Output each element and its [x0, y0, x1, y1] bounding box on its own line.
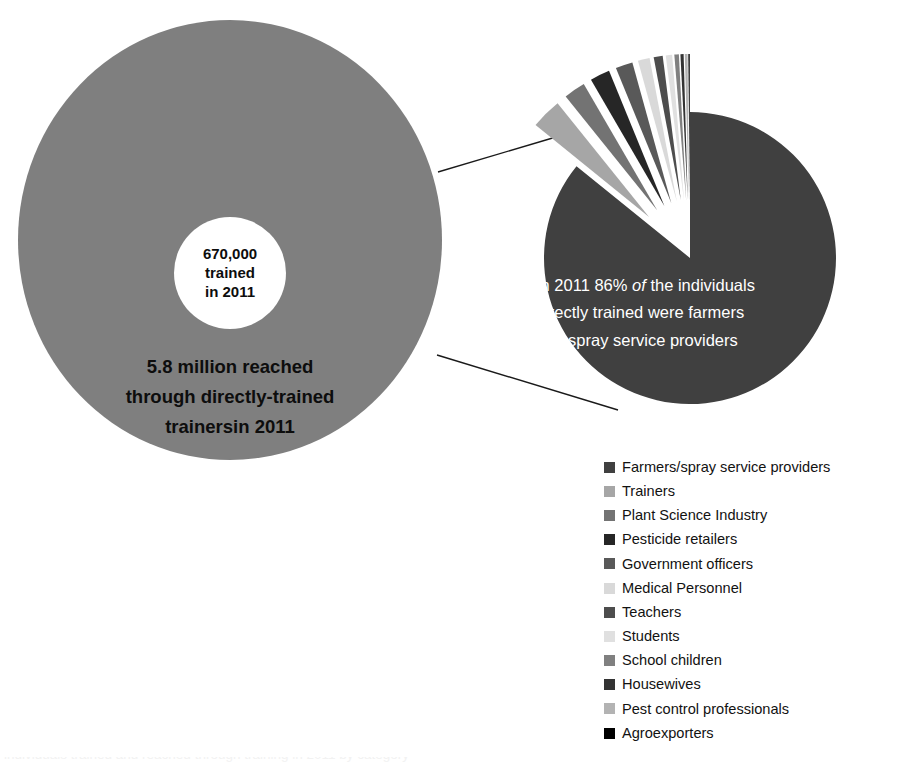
legend-item: Pesticide retailers	[604, 528, 904, 552]
donut-caption-line-1: 5.8 million reached	[18, 352, 442, 382]
chart-legend: Farmers/spray service providersTrainersP…	[604, 455, 904, 745]
legend-item: Plant Science Industry	[604, 503, 904, 527]
pie-callout-line1-a: In 2011 86%	[536, 276, 632, 294]
legend-item-label: Students	[622, 629, 680, 644]
legend-item: Government officers	[604, 552, 904, 576]
donut-center-line-3: in 2011	[205, 284, 255, 300]
legend-item: Medical Personnel	[604, 576, 904, 600]
donut-caption-line-3: trainersin 2011	[18, 412, 442, 442]
legend-item-label: Pest control professionals	[622, 702, 789, 717]
pie-callout-line-2: directly trained were farmers	[536, 299, 832, 326]
legend-swatch-icon	[604, 583, 615, 594]
pie-chart-figure: 670,000 trained in 2011 5.8 million reac…	[0, 0, 906, 771]
legend-item-label: Farmers/spray service providers	[622, 460, 830, 475]
legend-swatch-icon	[604, 703, 615, 714]
legend-swatch-icon	[604, 534, 615, 545]
figure-caption-text: individuals trained and reached through …	[4, 757, 604, 762]
donut-center-line-2: trained	[205, 265, 255, 281]
legend-item: Pest control professionals	[604, 697, 904, 721]
legend-swatch-icon	[604, 631, 615, 642]
legend-swatch-icon	[604, 462, 615, 473]
pie-callout-line-1: In 2011 86% of the individuals	[536, 272, 832, 299]
legend-item-label: Government officers	[622, 557, 753, 572]
legend-item-label: Housewives	[622, 677, 701, 692]
legend-item: Agroexporters	[604, 721, 904, 745]
pie-callout-line-3: and spray service providers	[536, 327, 832, 354]
legend-item-label: Pesticide retailers	[622, 532, 737, 547]
legend-swatch-icon	[604, 679, 615, 690]
legend-item-label: Teachers	[622, 605, 681, 620]
legend-swatch-icon	[604, 607, 615, 618]
reach-donut-hole: 670,000 trained in 2011	[174, 217, 286, 329]
reach-donut: 670,000 trained in 2011 5.8 million reac…	[18, 20, 442, 460]
pie-callout-text: In 2011 86% of the individuals directly …	[536, 272, 832, 354]
legend-item: Housewives	[604, 673, 904, 697]
legend-item-label: Agroexporters	[622, 726, 714, 741]
legend-item-label: Trainers	[622, 484, 675, 499]
donut-center-line-1: 670,000	[203, 246, 257, 262]
legend-swatch-icon	[604, 486, 615, 497]
legend-item-label: Medical Personnel	[622, 581, 742, 596]
legend-item: Teachers	[604, 600, 904, 624]
legend-item: School children	[604, 649, 904, 673]
pie-callout-line1-b: the individuals	[646, 276, 755, 294]
legend-item: Trainers	[604, 479, 904, 503]
pie-callout-line1-italic: of	[632, 276, 646, 294]
legend-item-label: Plant Science Industry	[622, 508, 767, 523]
legend-item-label: School children	[622, 653, 722, 668]
legend-item: Students	[604, 624, 904, 648]
category-pie	[470, 10, 906, 460]
donut-caption-line-2: through directly-trained	[18, 382, 442, 412]
reach-donut-center-label: 670,000 trained in 2011	[174, 217, 286, 329]
figure-caption-cropped: individuals trained and reached through …	[4, 757, 604, 771]
reach-donut-caption: 5.8 million reached through directly-tra…	[18, 352, 442, 442]
legend-item: Farmers/spray service providers	[604, 455, 904, 479]
legend-swatch-icon	[604, 558, 615, 569]
legend-swatch-icon	[604, 655, 615, 666]
legend-swatch-icon	[604, 728, 615, 739]
legend-swatch-icon	[604, 510, 615, 521]
